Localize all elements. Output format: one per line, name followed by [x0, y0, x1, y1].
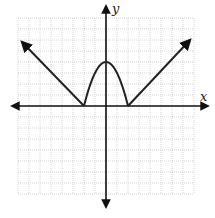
coordinate-graph: x y — [0, 0, 215, 218]
x-axis-label: x — [200, 89, 208, 104]
y-axis-label: y — [111, 1, 120, 16]
left-ray — [22, 42, 84, 106]
